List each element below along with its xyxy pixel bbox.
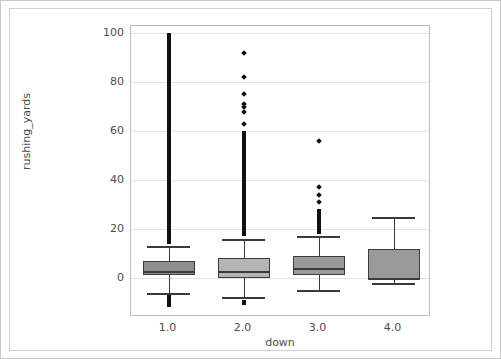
box-body [143, 261, 195, 276]
y-tick-100: 100 [103, 26, 124, 39]
y-tick-80: 80 [110, 75, 124, 88]
median-line [143, 271, 195, 273]
whisker-upper [319, 236, 320, 256]
whisker-lower [319, 275, 320, 290]
gridline-60 [131, 131, 429, 132]
median-line [368, 278, 420, 280]
box-body [293, 256, 345, 276]
x-tick-4.0: 4.0 [384, 321, 402, 334]
outlier-band [167, 295, 171, 307]
plot-area [130, 25, 430, 316]
y-axis-tick-labels: 020406080100 [82, 25, 124, 316]
whisker-upper [394, 217, 395, 249]
y-tick-40: 40 [110, 173, 124, 186]
x-tick-1.0: 1.0 [159, 321, 177, 334]
whisker-upper [169, 246, 170, 261]
outlier-band [167, 33, 171, 243]
outlier-point [316, 138, 322, 144]
gridline-100 [131, 33, 429, 34]
figure-canvas: rushing_yards 020406080100 1.02.03.04.0 … [0, 0, 501, 359]
y-tick-20: 20 [110, 221, 124, 234]
box-body [368, 249, 420, 281]
median-line [218, 271, 270, 273]
cap-upper [222, 239, 266, 241]
x-axis-tick-labels: 1.02.03.04.0 [130, 317, 430, 335]
median-line [293, 268, 345, 270]
gridline-20 [131, 229, 429, 230]
figure-inner-frame: rushing_yards 020406080100 1.02.03.04.0 … [9, 8, 492, 351]
gridline-80 [131, 82, 429, 83]
cap-upper [372, 217, 416, 219]
whisker-lower [169, 275, 170, 292]
box-body [218, 258, 270, 278]
outlier-point [316, 192, 322, 198]
outlier-band [242, 300, 246, 305]
outlier-point [316, 185, 322, 191]
outlier-point [241, 50, 247, 56]
outlier-band [317, 209, 321, 233]
whisker-upper [244, 239, 245, 259]
outlier-point [316, 199, 322, 205]
outlier-point [241, 75, 247, 81]
cap-upper [297, 236, 341, 238]
gridline-40 [131, 180, 429, 181]
x-tick-2.0: 2.0 [234, 321, 252, 334]
outlier-band [242, 131, 246, 236]
whisker-lower [244, 278, 245, 298]
x-axis-label: down [130, 336, 430, 349]
cap-upper [147, 246, 191, 248]
outlier-point [241, 121, 247, 127]
cap-lower [372, 283, 416, 285]
outlier-point [241, 92, 247, 98]
x-tick-3.0: 3.0 [309, 321, 327, 334]
y-tick-0: 0 [117, 270, 124, 283]
y-tick-60: 60 [110, 124, 124, 137]
cap-lower [297, 290, 341, 292]
y-axis-label: rushing_yards [20, 72, 33, 192]
